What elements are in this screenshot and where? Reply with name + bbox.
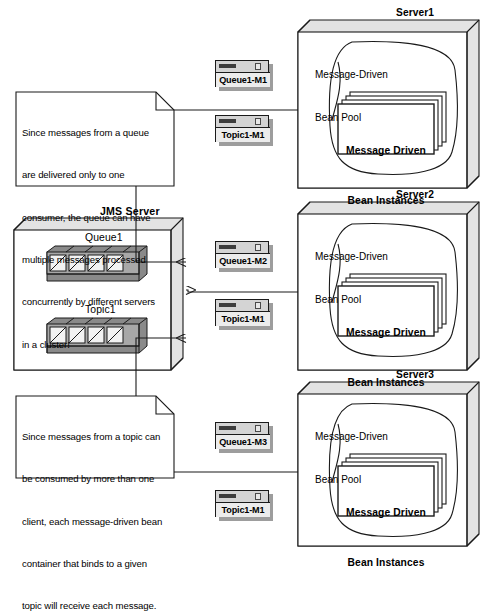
icon-button-square bbox=[255, 425, 261, 432]
message-label: Topic1-M1 bbox=[216, 311, 270, 326]
icon-titlebar bbox=[219, 245, 236, 249]
icon-button-square bbox=[255, 244, 261, 251]
message-label: Queue1-M3 bbox=[216, 434, 270, 449]
icon-titlebar bbox=[219, 119, 236, 123]
server3-bean-instances-label: Message Driven Bean Instances bbox=[338, 472, 434, 605]
queue1-label: Queue1 bbox=[85, 231, 123, 244]
icon-button-square bbox=[255, 63, 261, 70]
message-label: Queue1-M1 bbox=[216, 72, 270, 87]
icon-titlebar bbox=[219, 494, 236, 498]
message-label: Queue1-M2 bbox=[216, 253, 270, 268]
icon-titlebar bbox=[219, 64, 236, 68]
icon-window-body: Topic1-M1 bbox=[215, 115, 269, 142]
topic-note-text: Since messages from a topic can be consu… bbox=[22, 402, 172, 615]
connector-server2-to-topic1 bbox=[186, 290, 298, 292]
icon-titlebar bbox=[219, 303, 236, 307]
server1-title: Server1 bbox=[396, 6, 434, 19]
icon-titlebar bbox=[219, 426, 236, 430]
icon-window-body: Queue1-M1 bbox=[215, 60, 269, 87]
icon-button-square bbox=[255, 302, 261, 309]
icon-window-body: Topic1-M1 bbox=[215, 490, 269, 517]
icon-window-body: Queue1-M3 bbox=[215, 422, 269, 449]
icon-button-square bbox=[255, 493, 261, 500]
icon-button-square bbox=[255, 118, 261, 125]
message-label: Topic1-M1 bbox=[216, 127, 270, 142]
icon-window-body: Queue1-M2 bbox=[215, 241, 269, 268]
icon-window-body: Topic1-M1 bbox=[215, 299, 269, 326]
topic1-label: Topic1 bbox=[85, 303, 116, 316]
jms-server-title: JMS Server bbox=[100, 205, 160, 219]
message-label: Topic1-M1 bbox=[216, 502, 270, 517]
